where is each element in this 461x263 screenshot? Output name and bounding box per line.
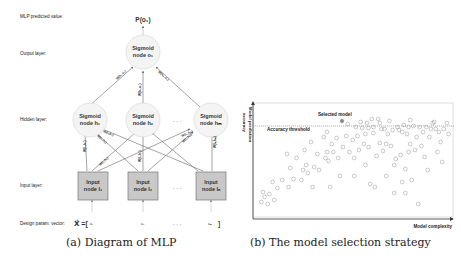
y-axis-label-2: accuracy xyxy=(242,113,247,133)
model-point xyxy=(304,163,308,167)
svg-text:node h₁: node h₁ xyxy=(80,120,101,126)
model-point xyxy=(400,180,404,184)
model-point xyxy=(413,148,417,152)
output-node: Sigmoid node o₁ xyxy=(126,35,160,69)
model-point xyxy=(295,156,299,160)
svg-text:Input: Input xyxy=(86,179,100,185)
caption-b: (b) The model selection strategy xyxy=(250,236,431,249)
svg-text:W(Iₙ,h₁): W(Iₙ,h₁) xyxy=(103,129,115,137)
model-point xyxy=(367,145,371,149)
model-point xyxy=(423,155,427,159)
model-point xyxy=(402,123,406,127)
svg-text:Sigmoid: Sigmoid xyxy=(132,113,154,119)
model-point xyxy=(408,142,412,146)
model-point xyxy=(378,141,382,145)
model-point xyxy=(436,150,440,154)
model-point xyxy=(389,144,393,148)
selected-model-point xyxy=(340,119,344,123)
model-selection-panel: Accuracy threshold Selected model Model … xyxy=(240,0,461,263)
model-point xyxy=(311,185,315,189)
model-point xyxy=(336,156,340,160)
model-point xyxy=(341,145,345,149)
model-point xyxy=(330,142,334,146)
model-point xyxy=(309,140,313,144)
model-point xyxy=(272,198,276,202)
model-point xyxy=(442,127,446,131)
model-point xyxy=(370,117,374,121)
model-point xyxy=(420,144,424,148)
model-point xyxy=(335,136,339,140)
model-point xyxy=(322,135,326,139)
model-point xyxy=(352,174,356,178)
model-point xyxy=(338,174,342,178)
model-point xyxy=(301,168,305,172)
model-point xyxy=(364,163,368,167)
hidden-node-m: Sigmoid node hₘ xyxy=(194,103,228,137)
svg-text:W(I₁,h₁): W(I₁,h₁) xyxy=(83,141,87,153)
model-point xyxy=(408,118,412,122)
svg-text:W(I₁,h₂): W(I₁,h₂) xyxy=(98,156,109,167)
svg-text:Sigmoid: Sigmoid xyxy=(200,113,222,119)
model-point xyxy=(260,200,264,204)
svg-text:node o₁: node o₁ xyxy=(133,52,154,58)
svg-text:Sigmoid: Sigmoid xyxy=(132,45,154,51)
input-node-1: Input node I₁ xyxy=(78,172,108,200)
svg-text:a₂: a₂ xyxy=(141,222,145,226)
model-point xyxy=(392,191,396,195)
predicted-value: P(o₁) xyxy=(135,16,150,24)
model-point xyxy=(362,142,366,146)
svg-text:a₁: a₁ xyxy=(90,222,94,226)
model-point xyxy=(266,202,270,206)
model-point xyxy=(352,156,356,160)
model-point xyxy=(415,135,419,139)
model-point xyxy=(386,132,390,136)
model-point xyxy=(280,178,284,182)
model-point xyxy=(405,132,409,136)
model-point xyxy=(416,202,420,206)
hidden-ellipsis: . . . xyxy=(173,117,182,123)
model-point xyxy=(381,149,385,153)
model-point xyxy=(359,120,363,124)
model-point xyxy=(364,132,368,136)
model-point xyxy=(426,168,430,172)
svg-text:Input: Input xyxy=(136,179,150,185)
model-point xyxy=(263,195,267,199)
svg-text:. . .: . . . xyxy=(173,220,182,226)
model-point xyxy=(360,126,364,130)
model-point xyxy=(447,132,451,136)
model-point xyxy=(388,119,392,123)
model-point xyxy=(367,126,371,130)
design-vector: X⃗ =[ a₁ a₂ . . . aₙ ] xyxy=(74,219,220,228)
model-point xyxy=(327,159,331,163)
model-point xyxy=(356,134,360,138)
model-point xyxy=(384,142,388,146)
svg-text:W(h₂,o₁): W(h₂,o₁) xyxy=(138,83,142,96)
svg-text:]: ] xyxy=(218,220,220,228)
plot-frame xyxy=(253,103,453,217)
model-point xyxy=(407,125,411,129)
model-point xyxy=(317,168,321,172)
model-point xyxy=(324,156,328,160)
model-point xyxy=(392,163,396,167)
threshold-label: Accuracy threshold xyxy=(267,127,310,132)
model-point xyxy=(399,153,403,157)
hidden-node-2: Sigmoid node h₂ xyxy=(126,103,160,137)
model-point xyxy=(373,185,377,189)
model-point xyxy=(271,180,275,184)
svg-text:node hₘ: node hₘ xyxy=(200,120,222,126)
model-point xyxy=(376,117,380,121)
model-point xyxy=(261,190,265,194)
model-point xyxy=(268,192,272,196)
svg-text:Input: Input xyxy=(204,179,218,185)
svg-text:W(h₁,o₁): W(h₁,o₁) xyxy=(115,69,127,80)
model-point xyxy=(384,174,388,178)
scatter-chart: Accuracy threshold Selected model Model … xyxy=(240,0,461,235)
mlp-diagram-panel: MLP predicted value: Output layer: Hidde… xyxy=(0,0,240,263)
x-axis-label: Model complexity xyxy=(413,224,452,229)
model-point xyxy=(372,125,376,129)
caption-a: (a) Diagram of MLP xyxy=(66,236,176,249)
svg-text:W(Iₙ,hₘ): W(Iₙ,hₘ) xyxy=(213,136,217,148)
model-point xyxy=(276,186,280,190)
model-point xyxy=(300,178,304,182)
model-point xyxy=(428,135,432,139)
